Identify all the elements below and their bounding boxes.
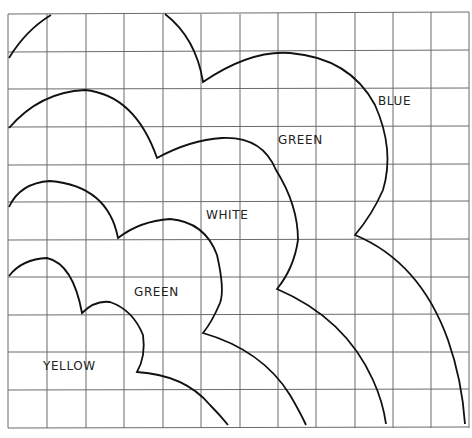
green-yellow-boundary	[9, 258, 228, 425]
label-green-inner: GREEN	[134, 285, 179, 299]
label-green-outer: GREEN	[278, 133, 323, 147]
label-white: WHITE	[206, 208, 248, 222]
label-blue: BLUE	[378, 94, 411, 108]
white-green-boundary	[9, 181, 306, 425]
zone-diagram: BLUE GREEN WHITE GREEN YELLOW	[0, 0, 472, 438]
label-yellow: YELLOW	[43, 359, 96, 373]
green-blue-boundary	[9, 90, 386, 424]
